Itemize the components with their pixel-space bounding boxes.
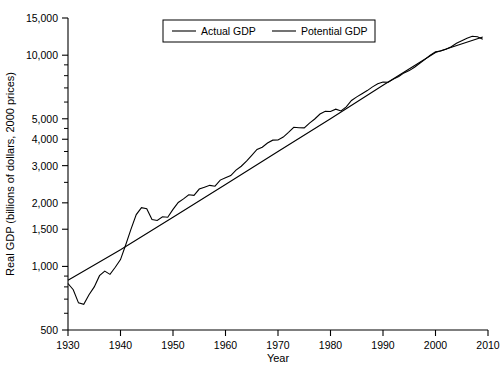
chart-background: [0, 0, 503, 374]
x-tick-label: 2000: [424, 339, 448, 351]
y-tick-label: 500: [40, 324, 58, 336]
x-tick-label: 1930: [56, 339, 80, 351]
y-tick-label: 1,500: [32, 223, 58, 235]
chart-canvas: 5001,0001,5002,0003,0004,0005,00010,0001…: [0, 0, 503, 374]
x-axis-title: Year: [267, 352, 290, 364]
x-tick-label: 1980: [319, 339, 343, 351]
y-tick-label: 2,000: [32, 197, 58, 209]
y-tick-label: 15,000: [26, 12, 58, 24]
y-tick-label: 1,000: [32, 260, 58, 272]
x-axis-tick-labels: 193019401950196019701980199020002010: [56, 339, 500, 351]
y-tick-label: 4,000: [32, 133, 58, 145]
x-tick-label: 1990: [371, 339, 395, 351]
gdp-chart: 5001,0001,5002,0003,0004,0005,00010,0001…: [0, 0, 503, 374]
x-tick-label: 1970: [266, 339, 290, 351]
x-tick-label: 1960: [214, 339, 238, 351]
y-tick-label: 5,000: [32, 113, 58, 125]
y-tick-label: 3,000: [32, 160, 58, 172]
x-tick-label: 2010: [476, 339, 500, 351]
y-axis-title: Real GDP (billions of dollars, 2000 pric…: [4, 72, 16, 276]
x-tick-label: 1950: [161, 339, 185, 351]
legend-label-potential: Potential GDP: [301, 25, 368, 37]
y-tick-label: 10,000: [26, 49, 58, 61]
x-tick-label: 1940: [109, 339, 133, 351]
chart-legend: Actual GDP Potential GDP: [163, 20, 375, 42]
legend-label-actual: Actual GDP: [201, 25, 256, 37]
